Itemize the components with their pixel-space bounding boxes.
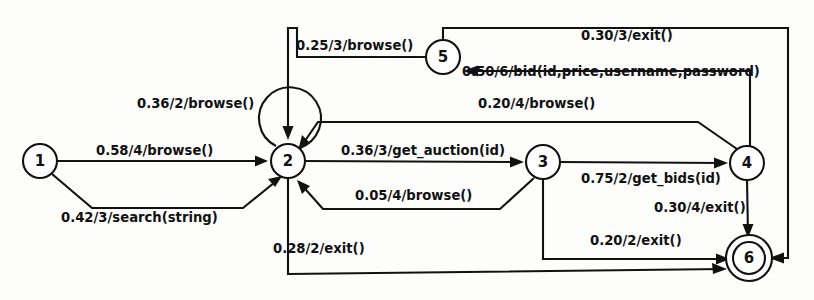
edge-label-4-6-exit: 0.30/4/exit() xyxy=(654,200,746,215)
edge-label-5-2-browse: 0.25/3/browse() xyxy=(296,38,413,53)
edge-label-1-2-browse: 0.58/4/browse() xyxy=(96,143,213,158)
arrowhead-icon xyxy=(714,158,728,169)
edge-label-2-6-exit: 0.28/2/exit() xyxy=(273,241,365,256)
node-label-1: 1 xyxy=(35,152,45,170)
edge-label-3-4-get-bids: 0.75/2/get_bids(id) xyxy=(581,171,721,187)
state-node-1[interactable]: 1 xyxy=(23,144,57,178)
arrowhead-icon xyxy=(510,157,524,168)
edge-label-5-6-exit: 0.30/3/exit() xyxy=(581,28,673,43)
edge-label-3-2-browse: 0.05/4/browse() xyxy=(355,188,472,203)
edge-3-to-4-get-bids xyxy=(560,158,728,169)
state-diagram-svg: 1 2 3 4 5 6 0.58/4/browse() 0.42/3/searc… xyxy=(0,0,814,300)
edge-label-4-2-browse: 0.20/4/browse() xyxy=(478,96,595,111)
state-node-4[interactable]: 4 xyxy=(730,146,764,180)
node-label-5: 5 xyxy=(438,48,448,66)
arrowhead-icon xyxy=(255,156,268,167)
edge-label-2-self-browse: 0.36/2/browse() xyxy=(137,96,254,111)
node-label-6: 6 xyxy=(744,249,754,267)
edge-label-4-5-bid: 0.50/6/bid(id,price,username,password) xyxy=(462,64,760,79)
node-label-4: 4 xyxy=(742,154,752,172)
arrowhead-icon xyxy=(712,263,727,274)
state-diagram-canvas: 1 2 3 4 5 6 0.58/4/browse() 0.42/3/searc… xyxy=(0,0,814,300)
edge-path xyxy=(259,87,321,148)
edge-label-1-2-search: 0.42/3/search(string) xyxy=(61,210,218,225)
edge-2-to-3-get-auction xyxy=(305,157,524,168)
edge-path xyxy=(305,161,521,162)
state-node-6-final[interactable]: 6 xyxy=(726,235,772,281)
state-node-5[interactable]: 5 xyxy=(426,40,460,74)
edge-1-to-2-search xyxy=(52,174,282,208)
edge-path xyxy=(52,174,280,208)
state-node-2[interactable]: 2 xyxy=(271,144,305,178)
state-node-3[interactable]: 3 xyxy=(526,145,560,179)
edge-path xyxy=(560,162,724,163)
arrowhead-icon xyxy=(283,126,294,140)
node-label-2: 2 xyxy=(283,152,293,170)
edge-label-2-3-get-auction: 0.36/3/get_auction(id) xyxy=(341,143,505,159)
edge-label-3-6-exit: 0.20/2/exit() xyxy=(590,233,682,248)
node-label-3: 3 xyxy=(538,153,548,171)
edge-3-to-6-exit xyxy=(543,179,730,265)
